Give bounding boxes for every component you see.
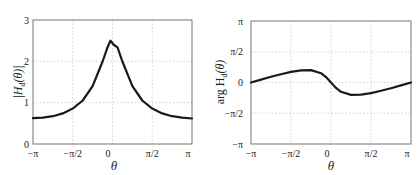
- svg-text:−π/2: −π/2: [225, 108, 243, 119]
- svg-text:π/2: π/2: [230, 46, 243, 57]
- svg-text:π/2: π/2: [146, 148, 159, 159]
- svg-text:π/2: π/2: [365, 148, 378, 159]
- phase-xlabel: θ: [328, 158, 335, 173]
- svg-text:π: π: [238, 16, 243, 27]
- svg-text:π: π: [185, 148, 190, 159]
- figure: 0 1 2 3 −π −π/2 0 π/2 π θ |Hd(θ)| −π −π/: [0, 0, 420, 175]
- magnitude-xticks: −π −π/2 0 π/2 π: [28, 148, 191, 159]
- phase-ylabel: arg Hd(θ): [213, 60, 229, 105]
- svg-text:0: 0: [106, 148, 111, 159]
- phase-yticks: −π −π/2 0 π/2 π: [225, 16, 243, 150]
- magnitude-plot: 0 1 2 3 −π −π/2 0 π/2 π θ |Hd(θ)|: [11, 15, 192, 174]
- svg-text:−π/2: −π/2: [282, 148, 300, 159]
- svg-text:2: 2: [24, 56, 29, 67]
- svg-text:π: π: [404, 148, 409, 159]
- svg-text:−π: −π: [246, 148, 257, 159]
- phase-plot: −π −π/2 0 π/2 π −π −π/2 0 π/2 π θ arg Hd…: [213, 16, 411, 174]
- svg-text:−π: −π: [232, 139, 243, 150]
- magnitude-ylabel: |Hd(θ)|: [11, 65, 27, 98]
- svg-text:−π/2: −π/2: [64, 148, 82, 159]
- svg-text:0: 0: [238, 77, 243, 88]
- magnitude-xlabel: θ: [111, 158, 118, 173]
- magnitude-grid: [33, 20, 192, 144]
- svg-text:−π: −π: [28, 148, 39, 159]
- svg-text:3: 3: [24, 15, 29, 26]
